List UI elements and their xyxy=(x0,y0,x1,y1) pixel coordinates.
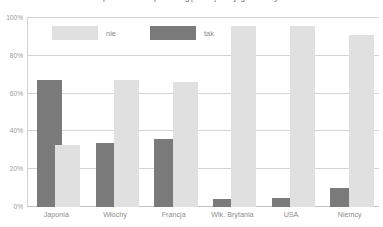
y-axis-tick-label: 60% xyxy=(10,89,23,96)
x-axis-tick-label: Japonia xyxy=(27,210,86,219)
y-axis-tick-label: 20% xyxy=(10,165,23,172)
bar-nie xyxy=(290,26,315,207)
chart-title: powinno brać pod uwagę szczęście jego ro… xyxy=(0,0,383,3)
bar-group xyxy=(144,18,203,207)
bar-group xyxy=(320,18,379,207)
y-axis-tick-label: 40% xyxy=(10,127,23,134)
bar-group xyxy=(262,18,321,207)
bar-nie xyxy=(114,80,139,207)
bar-groups xyxy=(27,18,379,207)
x-axis-tick-label: Francja xyxy=(144,210,203,219)
bar-nie xyxy=(55,145,80,207)
x-axis-tick-label: Niemcy xyxy=(320,210,379,219)
y-axis-tick-label: 0% xyxy=(13,203,23,210)
bar-nie xyxy=(173,82,198,207)
y-axis-tick-label: 100% xyxy=(6,14,23,21)
bar-group xyxy=(27,18,86,207)
bar-group xyxy=(86,18,145,207)
bar-nie xyxy=(231,26,256,207)
x-axis-tick-label: Wlk. Brytania xyxy=(203,210,262,219)
y-axis-tick-label: 80% xyxy=(10,51,23,58)
bar-nie xyxy=(349,35,374,207)
x-axis-tick-label: USA xyxy=(262,210,321,219)
x-axis-tick-label: Włochy xyxy=(86,210,145,219)
plot-area: 0%20%40%60%80%100% xyxy=(27,18,379,207)
x-axis-labels: JaponiaWłochyFrancjaWlk. BrytaniaUSANiem… xyxy=(27,210,379,219)
bar-group xyxy=(203,18,262,207)
bar-chart: powinno brać pod uwagę szczęście jego ro… xyxy=(0,0,383,227)
